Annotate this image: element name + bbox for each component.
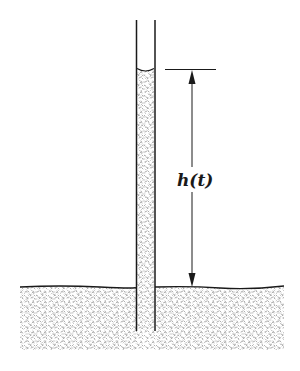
liquid-column (137, 69, 154, 332)
height-label: h(t) (175, 170, 215, 190)
arrowhead-up-icon (189, 70, 196, 84)
capillary-rise-diagram (0, 0, 300, 371)
arrowhead-down-icon (189, 273, 196, 287)
